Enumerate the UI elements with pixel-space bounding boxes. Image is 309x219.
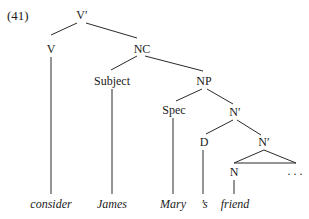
node-ellipsis: . . . [288,164,303,178]
edge-vbar-v [51,23,77,35]
edge-nc-np [145,56,203,71]
node-n: N [230,165,239,179]
edge-np-nbar1 [207,89,233,104]
edge-nc-subject [111,56,137,70]
edge-nbar1-nbar2 [237,120,261,135]
node-np: NP [196,74,212,88]
leaf-possessive-s: ’s [200,197,207,211]
leaf-friend: friend [221,197,251,211]
node-subject: Subject [94,74,131,88]
triangle-nbar2 [234,150,296,163]
leaf-mary: Mary [159,197,187,211]
node-spec: Spec [162,103,185,117]
leaf-consider: consider [30,197,72,211]
syntax-tree-diagram: (41) V′ V NC Subject NP Spec N′ D N′ N .… [0,0,309,219]
node-vbar: V′ [76,8,88,22]
leaf-james: James [97,197,127,211]
node-nbar1: N′ [229,105,241,119]
node-nc: NC [134,42,151,56]
edge-np-spec [176,89,202,101]
node-nbar2: N′ [258,135,270,149]
node-d: D [200,135,209,149]
example-number: (41) [7,8,29,23]
edge-vbar-nc [86,23,137,38]
tree-canvas: (41) V′ V NC Subject NP Spec N′ D N′ N .… [0,0,309,219]
node-v: V [47,42,56,56]
edge-nbar1-d [206,120,233,134]
